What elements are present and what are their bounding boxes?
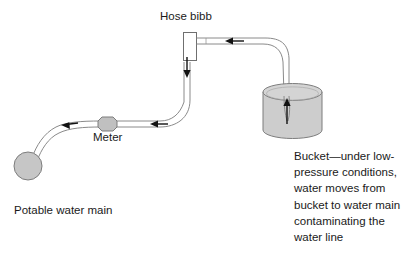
supply-pipe	[32, 62, 190, 161]
label-hose-bibb: Hose bibb	[160, 8, 212, 25]
potable-water-main-node	[14, 152, 42, 180]
hose-bibb-body	[184, 33, 197, 61]
label-bucket-note: Bucket—under low-pressure conditions, wa…	[294, 148, 406, 245]
label-meter: Meter	[93, 129, 122, 146]
arrow-hose-to-bibb	[225, 38, 244, 45]
diagram-canvas: Hose bibb Meter Potable water main Bucke…	[0, 0, 412, 263]
label-potable-water-main: Potable water main	[14, 202, 112, 219]
bucket-vessel	[263, 84, 322, 139]
